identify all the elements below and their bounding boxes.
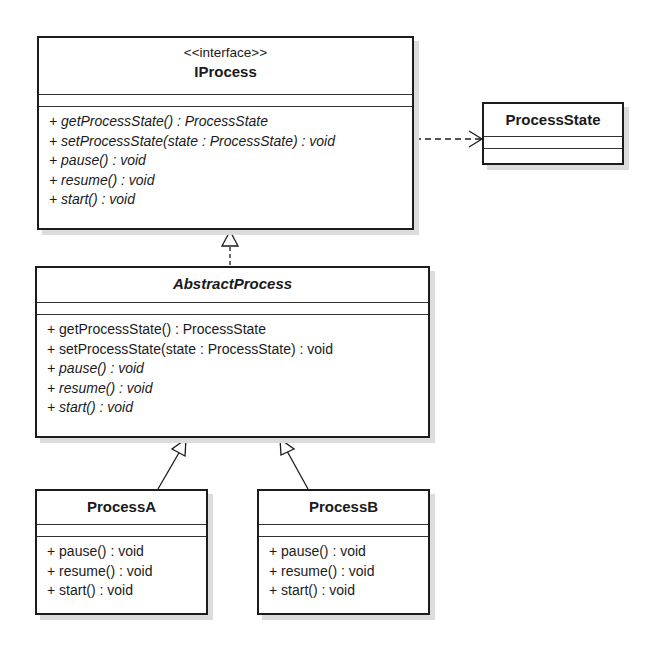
generalization-arrow-a xyxy=(158,439,186,489)
class-header: ProcessState xyxy=(484,104,622,137)
class-name: AbstractProcess xyxy=(37,274,428,294)
attributes-compartment xyxy=(37,303,428,315)
operations-compartment: + pause() : void + resume() : void + sta… xyxy=(259,537,428,601)
class-name: ProcessA xyxy=(37,497,206,517)
operation: + start() : void xyxy=(49,190,412,210)
class-process-state[interactable]: ProcessState xyxy=(482,102,624,165)
dependency-arrow xyxy=(415,131,482,147)
class-name: IProcess xyxy=(39,62,412,82)
class-iprocess[interactable]: <<interface>> IProcess + getProcessState… xyxy=(37,36,414,230)
stereotype-label: <<interface>> xyxy=(39,38,412,62)
class-header: ProcessA xyxy=(37,491,206,525)
class-header: ProcessB xyxy=(259,491,428,525)
operation: + getProcessState() : ProcessState xyxy=(49,112,412,132)
operation: + setProcessState(state : ProcessState) … xyxy=(49,132,412,152)
operation: + resume() : void xyxy=(269,562,428,582)
class-name: ProcessState xyxy=(484,110,622,130)
realization-arrow xyxy=(222,231,238,266)
attributes-compartment xyxy=(259,525,428,537)
operations-compartment: + getProcessState() : ProcessState + set… xyxy=(39,107,412,210)
operation: + pause() : void xyxy=(47,542,206,562)
operation: + start() : void xyxy=(47,398,428,418)
operation: + start() : void xyxy=(47,581,206,601)
class-header: <<interface>> IProcess xyxy=(39,38,412,95)
attributes-compartment xyxy=(39,95,412,107)
class-name: ProcessB xyxy=(259,497,428,517)
operation: + getProcessState() : ProcessState xyxy=(47,320,428,340)
class-header: AbstractProcess xyxy=(37,268,428,303)
operation: + pause() : void xyxy=(269,542,428,562)
class-process-a[interactable]: ProcessA + pause() : void + resume() : v… xyxy=(35,489,208,615)
operation: + start() : void xyxy=(269,581,428,601)
operation: + resume() : void xyxy=(49,171,412,191)
operation: + resume() : void xyxy=(47,562,206,582)
operation: + pause() : void xyxy=(47,359,428,379)
generalization-arrow-b xyxy=(280,439,308,489)
operation: + setProcessState(state : ProcessState) … xyxy=(47,340,428,360)
class-process-b[interactable]: ProcessB + pause() : void + resume() : v… xyxy=(257,489,430,615)
operations-compartment xyxy=(484,149,622,163)
attributes-compartment xyxy=(37,525,206,537)
operation: + resume() : void xyxy=(47,379,428,399)
class-abstract-process[interactable]: AbstractProcess + getProcessState() : Pr… xyxy=(35,266,430,438)
operation: + pause() : void xyxy=(49,151,412,171)
operations-compartment: + getProcessState() : ProcessState + set… xyxy=(37,315,428,418)
attributes-compartment xyxy=(484,137,622,149)
operations-compartment: + pause() : void + resume() : void + sta… xyxy=(37,537,206,601)
